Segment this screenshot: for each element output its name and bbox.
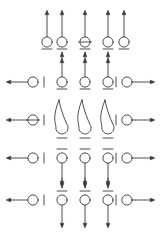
circle-node [80, 195, 90, 205]
circle-node [103, 77, 113, 87]
circle-node [103, 37, 113, 47]
circle-node [103, 195, 113, 205]
rail-right-circle [122, 77, 132, 87]
circle-node [57, 153, 67, 163]
rail-right-circle [122, 115, 132, 125]
rail-left-circle [28, 77, 38, 87]
circle-node [42, 37, 52, 47]
circle-node [57, 37, 67, 47]
circle-node [80, 77, 90, 87]
circle-node [57, 77, 67, 87]
circle-node [57, 195, 67, 205]
lattice-diagram-svg [0, 0, 160, 233]
rail-right-circle [122, 153, 132, 163]
rail-right-circle [122, 195, 132, 205]
rail-left-circle [28, 153, 38, 163]
circle-node [119, 37, 129, 47]
circle-node [103, 153, 113, 163]
rail-left-circle [28, 195, 38, 205]
figure-root [0, 0, 160, 233]
circle-node [80, 153, 90, 163]
